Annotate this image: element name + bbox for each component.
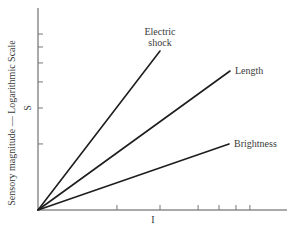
series-label-length: Length bbox=[235, 65, 263, 76]
series-label-electric-shock-line2: shock bbox=[148, 37, 171, 48]
series-label-electric-shock-line1: Electric bbox=[144, 26, 176, 37]
y-axis-symbol: S bbox=[22, 105, 33, 111]
x-axis-symbol: I bbox=[151, 214, 154, 225]
series-lines bbox=[38, 51, 230, 210]
stevens-power-law-chart: Sensory magnitude — Logarithmic Scale S … bbox=[0, 0, 293, 231]
series-label-brightness: Brightness bbox=[234, 138, 277, 149]
series-line-length bbox=[38, 71, 230, 210]
series-line-brightness bbox=[38, 144, 229, 210]
x-axis-ticks bbox=[117, 205, 250, 210]
chart-canvas: Sensory magnitude — Logarithmic Scale S … bbox=[0, 0, 293, 231]
series-line-electric-shock bbox=[38, 51, 160, 210]
y-axis-ticks bbox=[38, 34, 43, 144]
y-axis-label: Sensory magnitude — Logarithmic Scale bbox=[6, 40, 17, 206]
